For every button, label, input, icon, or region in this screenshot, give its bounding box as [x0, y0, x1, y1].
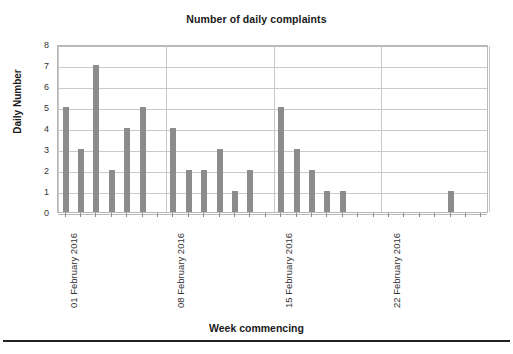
- bar: [324, 191, 330, 212]
- chart-title: Number of daily complaints: [0, 13, 513, 25]
- bar: [247, 170, 253, 212]
- bottom-divider: [3, 340, 510, 342]
- y-axis-tick-label: 5: [44, 104, 49, 113]
- bar: [140, 107, 146, 212]
- y-axis-tick-label: 3: [44, 146, 49, 155]
- y-axis-tick-labels: 012345678: [0, 45, 53, 213]
- y-axis-tick-label: 1: [44, 188, 49, 197]
- bar: [232, 191, 238, 212]
- y-axis-tick-label: 7: [44, 62, 49, 71]
- bar: [448, 191, 454, 212]
- chart-figure: Number of daily complaints Daily Number …: [0, 0, 513, 354]
- bar: [201, 170, 207, 212]
- bar: [78, 149, 84, 212]
- bar: [217, 149, 223, 212]
- x-axis-tick-label: 22 February 2016: [392, 233, 402, 308]
- bar: [124, 128, 130, 212]
- x-axis-tick-label: 15 February 2016: [284, 233, 294, 308]
- x-axis-tick-label: 08 February 2016: [176, 233, 186, 308]
- gridline-vertical: [489, 46, 490, 212]
- bar: [170, 128, 176, 212]
- bar-series: [58, 46, 487, 212]
- plot-area: [57, 45, 488, 213]
- bar: [109, 170, 115, 212]
- x-axis-tick-label: 01 February 2016: [69, 233, 79, 308]
- y-axis-tick-label: 8: [44, 41, 49, 50]
- bar: [278, 107, 284, 212]
- y-axis-tick-label: 0: [44, 209, 49, 218]
- bar: [340, 191, 346, 212]
- bar: [309, 170, 315, 212]
- y-axis-tick-label: 4: [44, 125, 49, 134]
- bar: [294, 149, 300, 212]
- bar: [63, 107, 69, 212]
- bar: [93, 65, 99, 212]
- bar: [186, 170, 192, 212]
- x-axis-tick-labels: 01 February 201608 February 201615 Febru…: [57, 216, 488, 311]
- y-axis-tick-label: 2: [44, 167, 49, 176]
- y-axis-tick-label: 6: [44, 83, 49, 92]
- x-axis-title: Week commencing: [0, 322, 513, 334]
